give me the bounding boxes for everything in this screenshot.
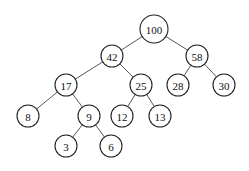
edge-58-30	[204, 64, 216, 77]
node-label: 30	[219, 80, 231, 92]
edge-9-6	[96, 125, 105, 137]
node-label: 13	[155, 111, 167, 123]
node-label: 42	[107, 51, 118, 63]
node-label: 17	[61, 80, 73, 92]
node-label: 58	[192, 51, 204, 63]
node-label: 6	[108, 141, 114, 153]
edge-42-17	[75, 62, 102, 79]
tree-nodes: 10042581725283089121336	[17, 15, 235, 157]
edge-42-25	[120, 64, 133, 77]
tree-node-58: 58	[186, 45, 208, 67]
node-label: 100	[146, 24, 163, 36]
node-label: 9	[86, 111, 92, 123]
edge-17-9	[73, 94, 83, 107]
tree-node-6: 6	[100, 135, 122, 157]
edge-100-58	[166, 36, 188, 50]
node-label: 12	[117, 111, 128, 123]
binary-tree-diagram: 10042581725283089121336	[0, 0, 249, 171]
tree-node-13: 13	[149, 105, 171, 127]
node-label: 25	[136, 80, 148, 92]
edge-100-42	[121, 37, 142, 50]
tree-node-12: 12	[111, 105, 133, 127]
tree-node-9: 9	[78, 105, 100, 127]
tree-node-3: 3	[55, 135, 77, 157]
edge-25-13	[147, 94, 155, 106]
tree-node-100: 100	[140, 15, 168, 43]
tree-node-42: 42	[101, 45, 123, 67]
edge-58-28	[184, 65, 191, 76]
edge-25-12	[128, 94, 136, 106]
tree-node-30: 30	[213, 74, 235, 96]
edge-17-8	[37, 92, 58, 109]
tree-node-8: 8	[17, 105, 39, 127]
node-label: 8	[25, 111, 31, 123]
tree-node-28: 28	[167, 74, 189, 96]
edge-9-3	[73, 125, 83, 138]
node-label: 28	[173, 80, 185, 92]
tree-node-25: 25	[130, 74, 152, 96]
node-label: 3	[63, 141, 69, 153]
tree-node-17: 17	[55, 74, 77, 96]
